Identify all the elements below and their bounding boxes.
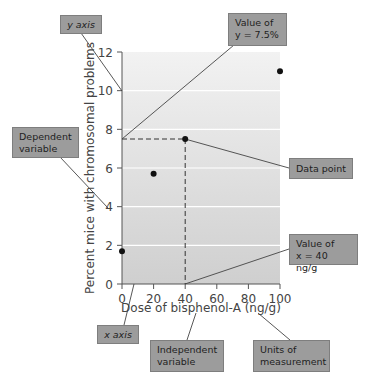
- data-point: [182, 136, 188, 142]
- callout-x-axis-text: x axis: [104, 329, 132, 340]
- data-point: [151, 171, 157, 177]
- callout-independent-line2: variable: [157, 356, 217, 368]
- callout-independent-line1: Independent: [157, 344, 217, 356]
- y-tick-label: 0: [105, 278, 113, 292]
- callout-value-x-line2: x = 40 ng/g: [296, 250, 351, 274]
- callout-data-point-text: Data point: [296, 163, 346, 174]
- callout-value-x-line1: Value of: [296, 238, 351, 250]
- leader-line: [187, 313, 196, 340]
- callout-independent-variable: Independent variable: [150, 340, 224, 372]
- callout-units-line1: Units of: [260, 344, 323, 356]
- scatter-chart: 024681012020406080100 Dose of bisphenol-…: [0, 0, 369, 380]
- data-point: [119, 248, 125, 254]
- data-point: [277, 68, 283, 74]
- leader-line: [258, 313, 290, 340]
- y-axis-label: Percent mice with chromosomal problems: [83, 42, 97, 294]
- callout-dependent-line1: Dependent: [19, 131, 72, 143]
- callout-units-line2: measurement: [260, 356, 323, 368]
- y-tick-label: 2: [105, 239, 113, 253]
- callout-value-y: Value of y = 7.5%: [228, 13, 287, 46]
- callout-value-x: Value of x = 40 ng/g: [289, 234, 358, 265]
- callout-y-axis-text: y axis: [67, 19, 95, 30]
- callout-data-point: Data point: [289, 158, 353, 179]
- callout-value-y-line2: y = 7.5%: [235, 29, 280, 41]
- callout-x-axis: x axis: [97, 325, 139, 344]
- x-axis-label: Dose of bisphenol-A (ng/g): [121, 301, 281, 315]
- y-tick-label: 12: [98, 46, 113, 60]
- y-tick-label: 8: [105, 123, 113, 137]
- y-tick-label: 4: [105, 200, 113, 214]
- callout-y-axis: y axis: [60, 15, 102, 34]
- callout-dependent-line2: variable: [19, 143, 72, 155]
- callout-value-y-line1: Value of: [235, 17, 280, 29]
- callout-dependent-variable: Dependent variable: [12, 127, 79, 158]
- y-tick-label: 10: [98, 84, 113, 98]
- y-tick-label: 6: [105, 162, 113, 176]
- callout-units-of-measurement: Units of measurement: [253, 340, 330, 372]
